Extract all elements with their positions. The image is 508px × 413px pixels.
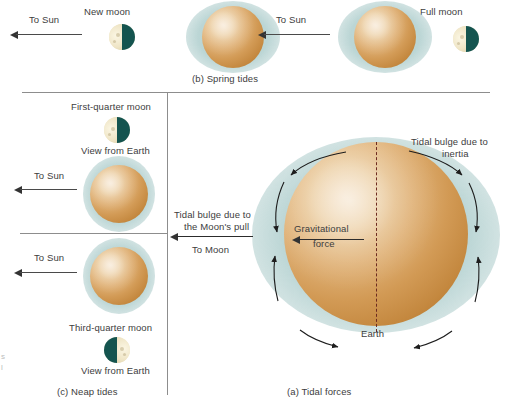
flow-arrow-left-upper: [276, 182, 284, 232]
flow-arrow-right-upper: [469, 183, 477, 232]
caption-tidal-forces: (a) Tidal forces: [287, 386, 351, 397]
tidal-forces-figure: New moon To Sun Full moon To Sun (b) Spr…: [0, 0, 508, 413]
flow-arrow-lower-left: [300, 330, 338, 347]
earth-label: Earth: [361, 328, 384, 339]
flow-arrow-left-lower: [274, 256, 278, 301]
tidal-flow-arrows: [0, 0, 508, 413]
gravitational-force-label-line2: force: [313, 238, 335, 249]
to-moon-arrow: [170, 232, 253, 241]
tidal-bulge-moon-label-line2: the Moon's pull: [184, 221, 249, 232]
flow-arrow-right-lower: [475, 257, 479, 302]
flow-arrow-lower-right: [414, 331, 452, 348]
tidal-bulge-inertia-label-line1: Tidal bulge due to: [411, 136, 488, 147]
tidal-bulge-moon-label-line1: Tidal bulge due to: [174, 209, 251, 220]
edge-fragment-2: l: [1, 363, 3, 372]
gravitational-force-label-line1: Gravitational: [294, 223, 349, 234]
edge-fragment-1: s: [1, 352, 5, 361]
tidal-bulge-inertia-label-line2: inertia: [442, 148, 469, 159]
arrow-shaft: [176, 236, 253, 237]
to-moon-label: To Moon: [192, 244, 229, 255]
flow-arrow-upper-left: [291, 152, 346, 175]
